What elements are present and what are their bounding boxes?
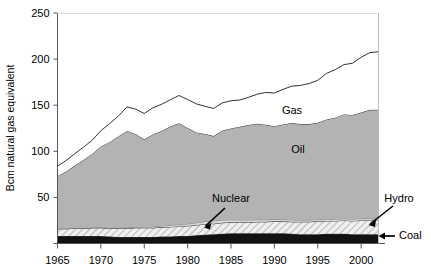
series-label-coal: Coal bbox=[399, 229, 422, 241]
y-tick-label: 250 bbox=[31, 7, 49, 19]
y-tick-label: 200 bbox=[31, 53, 49, 65]
x-tick-label: 2000 bbox=[349, 254, 373, 266]
x-tick-label: 1975 bbox=[132, 254, 156, 266]
chart-canvas: 50100150200250 1965197019751980198519901… bbox=[0, 0, 431, 278]
series-label-gas: Gas bbox=[282, 104, 303, 116]
series-label-nuclear: Nuclear bbox=[212, 192, 250, 204]
series-label-oil: Oil bbox=[291, 143, 304, 155]
series-label-hydro: Hydro bbox=[384, 192, 413, 204]
x-tick-label: 1980 bbox=[175, 254, 199, 266]
y-tick-label: 50 bbox=[37, 191, 49, 203]
x-tick-label: 1995 bbox=[306, 254, 330, 266]
y-tick-label: 100 bbox=[31, 145, 49, 157]
x-tick-label: 1985 bbox=[219, 254, 243, 266]
y-axis-title: Bcm natural gas equivalent bbox=[4, 65, 16, 192]
x-tick-label: 1970 bbox=[89, 254, 113, 266]
x-tick-label: 1990 bbox=[262, 254, 286, 266]
x-tick-label: 1965 bbox=[45, 254, 69, 266]
y-tick-label: 150 bbox=[31, 99, 49, 111]
stacked-area-chart: 50100150200250 1965197019751980198519901… bbox=[0, 0, 431, 278]
